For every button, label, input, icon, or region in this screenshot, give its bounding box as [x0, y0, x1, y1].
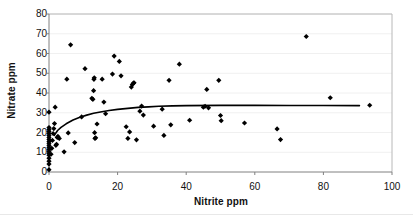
data-point-marker: [304, 34, 309, 39]
data-point-marker: [92, 130, 97, 135]
data-point-marker: [204, 87, 209, 92]
x-axis-title-label: Nitrite ppm: [194, 196, 248, 207]
data-point-marker: [91, 88, 96, 93]
scatter-chart: Nitrate ppm 01020304050607080 0204060801…: [0, 0, 413, 222]
data-point-marker: [367, 103, 372, 108]
data-point-marker: [187, 118, 192, 123]
data-point-marker: [274, 126, 279, 131]
data-point-marker: [160, 107, 165, 112]
data-point-marker: [161, 133, 166, 138]
data-point-marker: [112, 53, 117, 58]
data-point-marker: [52, 121, 57, 126]
data-point-marker: [177, 62, 182, 67]
data-point-marker: [100, 77, 105, 82]
data-point-marker: [168, 122, 173, 127]
data-point-marker: [166, 78, 171, 83]
data-point-marker: [72, 140, 77, 145]
data-point-marker: [151, 124, 156, 129]
data-point-marker: [118, 73, 123, 78]
data-point-marker: [216, 78, 221, 83]
data-point-marker: [82, 66, 87, 71]
data-point-marker: [61, 149, 66, 154]
data-point-marker: [46, 110, 51, 115]
data-point-marker: [53, 105, 58, 110]
plot-area: [0, 0, 413, 222]
data-point-marker: [68, 42, 73, 47]
data-point-marker: [219, 118, 224, 123]
data-point-marker: [66, 130, 71, 135]
data-point-marker: [218, 113, 223, 118]
data-point-marker: [101, 99, 106, 104]
data-point-marker: [64, 77, 69, 82]
data-point-marker: [94, 121, 99, 126]
data-point-marker: [117, 59, 122, 64]
bottom-divider: [0, 214, 413, 215]
data-point-marker: [51, 126, 56, 131]
trendline: [54, 105, 359, 135]
data-point-marker: [141, 113, 146, 118]
data-point-marker: [328, 95, 333, 100]
x-axis-title: Nitrite ppm: [49, 196, 393, 207]
data-point-marker: [124, 124, 129, 129]
data-point-marker: [125, 136, 130, 141]
data-point-marker: [110, 71, 115, 76]
data-point-marker: [242, 120, 247, 125]
data-point-marker: [134, 137, 139, 142]
data-point-marker: [79, 114, 84, 119]
data-point-marker: [278, 137, 283, 142]
data-point-marker: [127, 129, 132, 134]
data-point-marker: [46, 167, 51, 172]
